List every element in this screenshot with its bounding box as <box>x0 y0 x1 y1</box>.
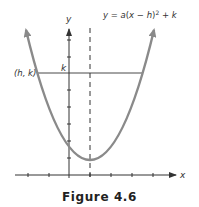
parabola-graph: y x k (h, k) y = a(x − h)2 + k <box>0 0 199 207</box>
parabola-figure: y x k (h, k) y = a(x − h)2 + k Figure 4.… <box>0 0 199 207</box>
vertex-point-label: (h, k) <box>14 68 36 78</box>
figure-caption: Figure 4.6 <box>0 190 199 204</box>
parabola-left-branch <box>26 30 90 160</box>
k-label: k <box>61 63 67 73</box>
y-axis-label: y <box>65 14 72 24</box>
x-axis-label: x <box>179 170 186 180</box>
equation-label: y = a(x − h)2 + k <box>102 9 178 21</box>
parabola-right-branch <box>90 30 154 160</box>
